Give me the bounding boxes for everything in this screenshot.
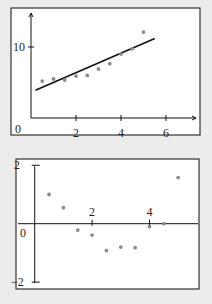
origin-label: 0 [20,226,26,240]
data-point [176,176,180,180]
data-point [108,62,112,66]
data-point [47,193,51,197]
data-point [105,249,109,253]
x-tick-label: 6 [163,126,169,140]
data-point [119,245,123,249]
plot-frame [11,8,200,135]
data-point [63,78,67,82]
plot-panel-1: 246100 [11,8,200,140]
y-tick-label: −2 [11,275,24,289]
x-tick-label: 2 [89,205,95,219]
y-tick-label: 2 [14,158,20,172]
chart-figure: 2461002−2240 [0,0,212,304]
data-point [119,52,123,56]
data-point [76,228,80,232]
data-point [40,79,44,83]
data-point [130,47,134,51]
origin-label: 0 [15,122,21,136]
data-point [85,74,89,78]
plot-panel-2: 2−2240 [11,158,199,289]
x-tick-label: 4 [147,205,153,219]
x-tick-label: 2 [73,126,79,140]
data-point [74,74,78,78]
data-point [162,222,166,226]
data-point [133,246,137,250]
data-point [62,206,66,210]
data-point [90,233,94,237]
data-point [97,67,101,71]
data-point [148,225,152,229]
data-point [52,77,56,81]
y-tick-label: 10 [13,40,25,54]
x-tick-label: 4 [118,126,124,140]
data-point [142,30,146,34]
